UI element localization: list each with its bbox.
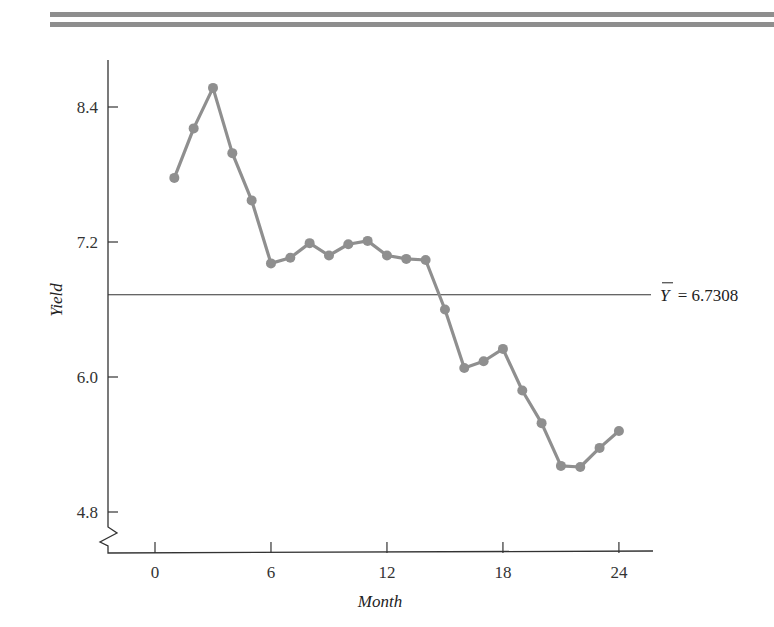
data-point-marker	[459, 363, 469, 373]
data-point-marker	[189, 123, 199, 133]
y-axis-title: Yield	[47, 283, 66, 317]
y-axis-ticks: 4.86.07.28.4	[77, 98, 118, 522]
x-axis-ticks: 06121824	[151, 542, 628, 582]
data-point-marker	[401, 254, 411, 264]
x-tick-label: 0	[151, 563, 160, 582]
x-tick-label: 24	[610, 563, 628, 582]
data-point-marker	[498, 344, 508, 354]
data-point-marker	[479, 356, 489, 366]
mean-value: = 6.7308	[678, 286, 739, 305]
data-point-marker	[324, 251, 334, 261]
data-point-marker	[169, 173, 179, 183]
data-point-marker	[440, 305, 450, 315]
y-axis	[100, 60, 653, 553]
data-point-marker	[556, 461, 566, 471]
x-axis-title: Month	[357, 592, 402, 611]
y-tick-label: 7.2	[77, 233, 98, 252]
yield-series-line	[174, 88, 619, 467]
data-point-marker	[363, 236, 373, 246]
yield-series-markers	[169, 83, 624, 472]
data-point-marker	[537, 418, 547, 428]
data-point-marker	[305, 238, 315, 248]
x-tick-label: 6	[267, 563, 276, 582]
x-tick-label: 12	[378, 563, 395, 582]
y-bar-symbol: Y	[660, 286, 671, 305]
data-point-marker	[343, 239, 353, 249]
axes	[100, 60, 653, 553]
data-point-marker	[227, 148, 237, 158]
data-point-marker	[614, 426, 624, 436]
data-point-marker	[382, 251, 392, 261]
data-point-marker	[266, 258, 276, 268]
data-point-marker	[517, 386, 527, 396]
data-point-marker	[285, 253, 295, 263]
yield-time-series-chart: 4.86.07.28.4 06121824 Y = 6.7308 Month Y…	[0, 0, 774, 627]
data-point-marker	[575, 462, 585, 472]
data-point-marker	[247, 195, 257, 205]
data-point-marker	[208, 83, 218, 93]
data-point-marker	[421, 255, 431, 265]
y-tick-label: 6.0	[77, 368, 98, 387]
x-tick-label: 18	[494, 563, 511, 582]
y-tick-label: 8.4	[77, 98, 99, 117]
data-point-marker	[595, 443, 605, 453]
y-tick-label: 4.8	[77, 503, 98, 522]
mean-reference-label: Y = 6.7308	[660, 286, 738, 305]
